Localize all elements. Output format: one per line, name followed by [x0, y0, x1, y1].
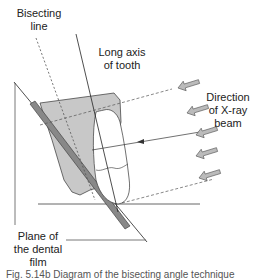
label-line: Long axis	[92, 46, 152, 59]
label-line: line	[14, 20, 64, 33]
figure-caption: Fig. 5.14b Diagram of the bisecting angl…	[6, 269, 234, 280]
bisecting-line-label: Bisecting line	[14, 7, 64, 33]
xray-ray-arrowhead	[137, 139, 144, 144]
label-line: of tooth	[92, 59, 152, 72]
label-line: film	[10, 256, 66, 269]
xray-arrow-1	[177, 77, 201, 93]
xray-arrow-4	[195, 145, 219, 161]
label-line: Plane of	[10, 230, 66, 243]
film-plane-label: Plane of the dental film	[10, 230, 66, 269]
label-line: of X-ray	[200, 104, 256, 117]
long-axis-label: Long axis of tooth	[92, 46, 152, 72]
label-line: Direction	[200, 91, 256, 104]
label-line: beam	[200, 117, 256, 130]
label-line: Bisecting	[14, 7, 64, 20]
xray-direction-label: Direction of X-ray beam	[200, 91, 256, 130]
label-line: the dental	[10, 243, 66, 256]
xray-ray-bottom	[122, 179, 214, 203]
